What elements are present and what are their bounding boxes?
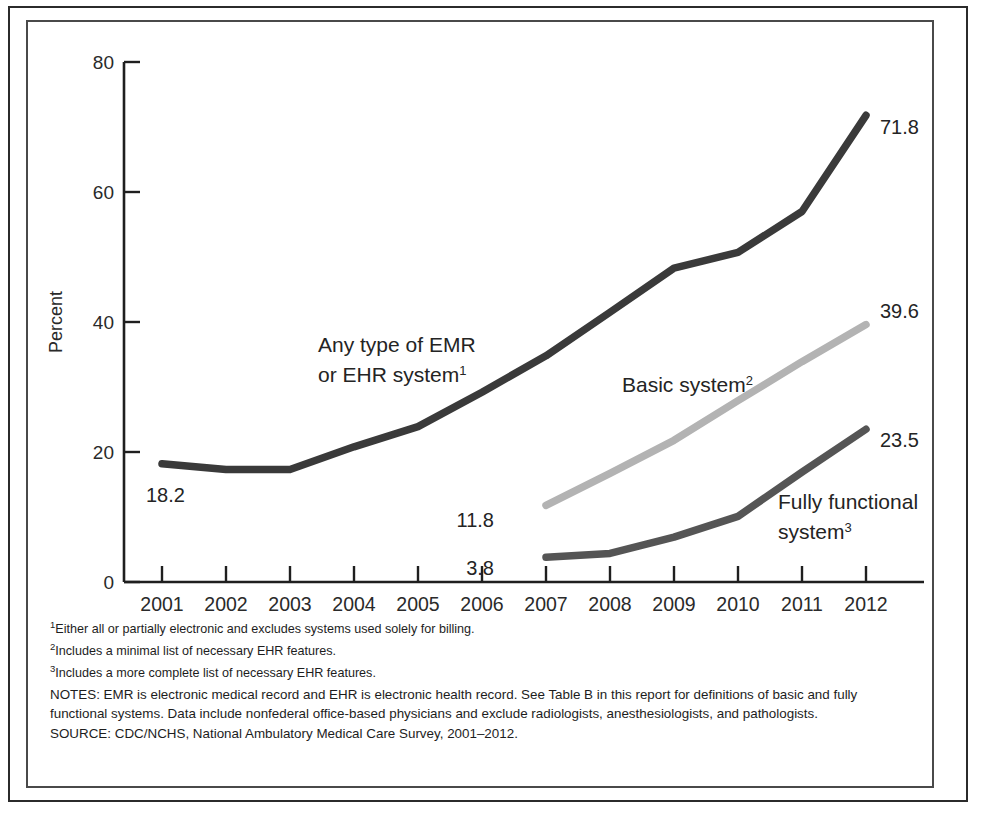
x-tick-label-2011: 2011 bbox=[781, 593, 823, 615]
series-annotation-basic: Basic system2 bbox=[622, 373, 753, 397]
series-annotation-emr-line2: or EHR system1 bbox=[318, 363, 466, 387]
value-label-fully-start: 3.8 bbox=[466, 557, 494, 579]
source-line: SOURCE: CDC/NCHS, National Ambulatory Me… bbox=[50, 724, 916, 743]
line-chart: 0 20 40 60 80 Percent bbox=[28, 22, 936, 622]
x-tick-label-2010: 2010 bbox=[716, 593, 760, 615]
chart-plot-area: 0 20 40 60 80 Percent bbox=[28, 22, 936, 622]
x-tick-label-2001: 2001 bbox=[140, 593, 183, 615]
series-line-any-emr-ehr bbox=[162, 115, 866, 469]
y-tick-label-20: 20 bbox=[93, 442, 114, 463]
value-label-basic-start: 11.8 bbox=[457, 509, 494, 531]
x-tick-label-2006: 2006 bbox=[460, 593, 503, 615]
value-label-emr-start: 18.2 bbox=[146, 484, 185, 506]
value-label-fully-end: 23.5 bbox=[880, 429, 919, 451]
figure-inner-frame: 0 20 40 60 80 Percent bbox=[26, 20, 934, 788]
series-annotation-fully-line2: system3 bbox=[778, 520, 852, 544]
series-annotation-fully-line1: Fully functional bbox=[778, 490, 918, 513]
footnote-2: 2Includes a minimal list of necessary EH… bbox=[50, 640, 916, 661]
y-axis-title: Percent bbox=[46, 291, 66, 353]
y-tick-label-60: 60 bbox=[93, 182, 114, 203]
y-tick-label-0: 0 bbox=[103, 572, 114, 593]
value-label-basic-end: 39.6 bbox=[880, 300, 919, 322]
footnote-3: 3Includes a more complete list of necess… bbox=[50, 662, 916, 683]
figure-notes: 1Either all or partially electronic and … bbox=[50, 618, 916, 743]
x-tick-label-2009: 2009 bbox=[652, 593, 695, 615]
y-axis-ticks bbox=[124, 62, 140, 582]
x-tick-label-2008: 2008 bbox=[588, 593, 631, 615]
x-tick-label-2012: 2012 bbox=[844, 593, 887, 615]
x-axis-ticks bbox=[162, 566, 866, 582]
x-tick-label-2004: 2004 bbox=[332, 593, 376, 615]
figure-outer-frame: 0 20 40 60 80 Percent bbox=[8, 6, 968, 802]
value-label-emr-end: 71.8 bbox=[880, 116, 919, 138]
series-line-basic-system bbox=[546, 325, 866, 506]
x-tick-label-2005: 2005 bbox=[396, 593, 440, 615]
series-annotation-emr-line1: Any type of EMR bbox=[318, 333, 476, 356]
notes-paragraph: NOTES: EMR is electronic medical record … bbox=[50, 685, 916, 723]
y-tick-label-80: 80 bbox=[93, 52, 114, 73]
x-tick-label-2007: 2007 bbox=[524, 593, 567, 615]
footnote-1: 1Either all or partially electronic and … bbox=[50, 618, 916, 639]
x-tick-label-2002: 2002 bbox=[204, 593, 247, 615]
x-tick-label-2003: 2003 bbox=[268, 593, 311, 615]
y-tick-label-40: 40 bbox=[93, 312, 114, 333]
